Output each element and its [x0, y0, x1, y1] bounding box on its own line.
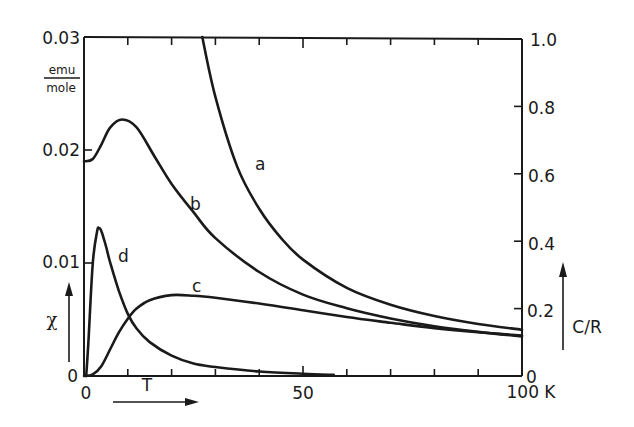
curve-a	[202, 37, 522, 330]
curve-label-b: b	[190, 194, 201, 214]
cr-arrow-icon	[559, 262, 567, 350]
t-arrow-icon	[113, 398, 199, 406]
axis-ticks	[84, 38, 522, 376]
x-tick-label-50: 50	[292, 383, 314, 403]
curve-c	[84, 295, 522, 376]
right-tick-label-08: 0.8	[528, 98, 555, 118]
chart-figure: 0.03 0.02 0.01 0 emu mole χ 0 50 100 K T…	[0, 0, 634, 427]
left-tick-label-003: 0.03	[42, 28, 80, 48]
curves	[84, 37, 522, 376]
curve-label-c: c	[192, 276, 201, 296]
right-tick-label-04: 0.4	[528, 234, 555, 254]
unit-denominator: mole	[46, 81, 76, 95]
curve-label-a: a	[255, 154, 265, 174]
right-tick-label-02: 0.2	[527, 301, 554, 321]
chi-axis-label: χ	[47, 309, 58, 330]
x-tick-label-0: 0	[81, 383, 92, 403]
curve-label-d: d	[118, 246, 129, 266]
cr-axis-label: C/R	[572, 317, 602, 337]
curve-b	[84, 120, 522, 337]
plot-frame	[84, 37, 522, 376]
right-tick-label-10: 1.0	[530, 30, 557, 50]
left-tick-label-002: 0.02	[42, 140, 80, 160]
chi-arrow-icon	[65, 282, 73, 362]
left-tick-label-0: 0	[67, 366, 78, 386]
left-tick-label-001: 0.01	[42, 252, 80, 272]
right-tick-label-0: 0	[526, 367, 537, 387]
unit-numerator: emu	[49, 63, 76, 77]
right-tick-label-06: 0.6	[528, 166, 555, 186]
t-axis-label: T	[141, 375, 153, 395]
